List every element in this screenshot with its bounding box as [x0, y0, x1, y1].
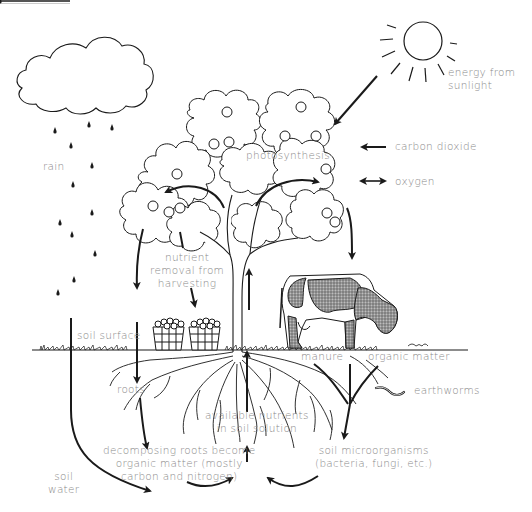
- organic-matter-arrows: [314, 364, 378, 438]
- label-roots: roots: [117, 383, 145, 396]
- apple-tree-icon: [120, 89, 344, 251]
- harvesting-arrow: [191, 288, 195, 306]
- sunlight-arrow: [335, 76, 377, 124]
- label-energy-from-sunlight: energy from sunlight: [448, 66, 515, 92]
- sun-icon: [380, 22, 457, 82]
- label-oxygen: oxygen: [395, 175, 435, 188]
- label-soil-surface: soil surface: [77, 329, 140, 342]
- label-soil-water: soil water: [48, 470, 79, 496]
- label-decomposing-roots: decomposing roots become organic matter …: [103, 444, 255, 483]
- earthworm-icon: [376, 387, 404, 395]
- label-photosynthesis: photosynthesis: [246, 149, 330, 162]
- label-carbon-dioxide: carbon dioxide: [395, 140, 477, 153]
- label-soil-microorganisms: soil microorganisms (bacteria, fungi, et…: [315, 444, 432, 470]
- nutrient-cycle-diagram: energy from sunlight carbon dioxide oxyg…: [0, 0, 532, 512]
- label-rain: rain: [43, 160, 65, 173]
- roots-to-decomposing-arrow: [140, 398, 147, 448]
- label-organic-matter: organic matter: [368, 350, 450, 363]
- apple-baskets-icon: [153, 318, 220, 350]
- label-manure: manure: [301, 350, 343, 363]
- cut-caption-fragment: [0, 0, 70, 4]
- cloud-icon: [17, 37, 153, 114]
- label-nutrient-removal: nutrient removal from harvesting: [150, 251, 224, 290]
- right-fall-arrow: [347, 208, 352, 258]
- cow-icon: [280, 274, 428, 348]
- label-available-nutrients: available nutrients in soil solution: [205, 409, 309, 435]
- label-earthworms: earthworms: [414, 384, 480, 397]
- microorganisms-to-nutrients-arrow: [268, 476, 318, 486]
